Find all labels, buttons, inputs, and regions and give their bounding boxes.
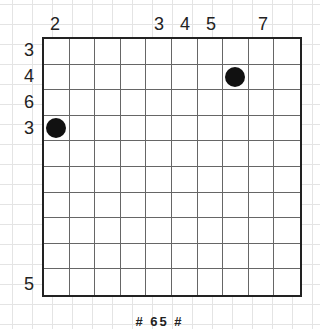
grid-cell-r5-c2[interactable] <box>70 141 96 167</box>
grid-cell-r7-c1[interactable] <box>44 193 70 219</box>
grid-cell-r5-c5[interactable] <box>146 141 172 167</box>
grid-cell-r1-c3[interactable] <box>95 39 121 65</box>
grid-cell-r10-c7[interactable] <box>198 269 224 295</box>
grid-cell-r8-c1[interactable] <box>44 218 70 244</box>
grid-cell-r2-c7[interactable] <box>198 65 224 91</box>
grid-cell-r8-c7[interactable] <box>198 218 224 244</box>
grid-cell-r10-c5[interactable] <box>146 269 172 295</box>
grid-cell-r10-c4[interactable] <box>121 269 147 295</box>
grid-cell-r1-c5[interactable] <box>146 39 172 65</box>
grid-cell-r2-c8[interactable] <box>223 65 249 91</box>
grid-cell-r6-c9[interactable] <box>249 167 275 193</box>
grid-cell-r7-c6[interactable] <box>172 193 198 219</box>
grid-cell-r6-c10[interactable] <box>274 167 300 193</box>
grid-cell-r2-c1[interactable] <box>44 65 70 91</box>
grid-cell-r1-c9[interactable] <box>249 39 275 65</box>
grid-cell-r9-c2[interactable] <box>70 244 96 270</box>
grid-cell-r10-c2[interactable] <box>70 269 96 295</box>
grid-cell-r9-c7[interactable] <box>198 244 224 270</box>
grid-cell-r6-c5[interactable] <box>146 167 172 193</box>
grid-cell-r4-c5[interactable] <box>146 116 172 142</box>
grid-cell-r10-c1[interactable] <box>44 269 70 295</box>
grid-cell-r2-c3[interactable] <box>95 65 121 91</box>
grid-cell-r7-c3[interactable] <box>95 193 121 219</box>
grid-cell-r6-c3[interactable] <box>95 167 121 193</box>
grid-cell-r2-c10[interactable] <box>274 65 300 91</box>
grid-cell-r8-c8[interactable] <box>223 218 249 244</box>
grid-cell-r9-c8[interactable] <box>223 244 249 270</box>
grid-cell-r1-c6[interactable] <box>172 39 198 65</box>
grid-cell-r5-c8[interactable] <box>223 141 249 167</box>
grid-cell-r8-c10[interactable] <box>274 218 300 244</box>
grid-cell-r10-c6[interactable] <box>172 269 198 295</box>
grid-cell-r9-c6[interactable] <box>172 244 198 270</box>
grid-cell-r6-c6[interactable] <box>172 167 198 193</box>
grid-cell-r2-c6[interactable] <box>172 65 198 91</box>
grid-cell-r4-c7[interactable] <box>198 116 224 142</box>
grid-cell-r10-c9[interactable] <box>249 269 275 295</box>
grid-cell-r6-c2[interactable] <box>70 167 96 193</box>
grid-cell-r4-c9[interactable] <box>249 116 275 142</box>
grid-cell-r7-c2[interactable] <box>70 193 96 219</box>
grid-cell-r5-c1[interactable] <box>44 141 70 167</box>
grid-cell-r9-c5[interactable] <box>146 244 172 270</box>
grid-cell-r3-c9[interactable] <box>249 90 275 116</box>
grid-cell-r10-c10[interactable] <box>274 269 300 295</box>
grid-cell-r3-c7[interactable] <box>198 90 224 116</box>
grid-cell-r3-c5[interactable] <box>146 90 172 116</box>
grid-cell-r6-c1[interactable] <box>44 167 70 193</box>
grid-cell-r5-c3[interactable] <box>95 141 121 167</box>
grid-cell-r3-c2[interactable] <box>70 90 96 116</box>
grid-cell-r4-c2[interactable] <box>70 116 96 142</box>
grid-cell-r3-c3[interactable] <box>95 90 121 116</box>
grid-cell-r1-c2[interactable] <box>70 39 96 65</box>
grid-cell-r9-c1[interactable] <box>44 244 70 270</box>
grid-cell-r8-c2[interactable] <box>70 218 96 244</box>
grid-cell-r2-c5[interactable] <box>146 65 172 91</box>
grid-cell-r1-c7[interactable] <box>198 39 224 65</box>
grid-cell-r5-c10[interactable] <box>274 141 300 167</box>
grid-cell-r8-c6[interactable] <box>172 218 198 244</box>
grid-cell-r9-c4[interactable] <box>121 244 147 270</box>
grid-cell-r8-c3[interactable] <box>95 218 121 244</box>
grid-cell-r1-c1[interactable] <box>44 39 70 65</box>
grid-cell-r4-c10[interactable] <box>274 116 300 142</box>
grid-cell-r3-c10[interactable] <box>274 90 300 116</box>
grid-cell-r9-c10[interactable] <box>274 244 300 270</box>
grid-cell-r6-c4[interactable] <box>121 167 147 193</box>
grid-cell-r4-c1[interactable] <box>44 116 70 142</box>
grid-cell-r3-c4[interactable] <box>121 90 147 116</box>
grid-cell-r3-c6[interactable] <box>172 90 198 116</box>
grid-cell-r6-c8[interactable] <box>223 167 249 193</box>
grid-cell-r4-c6[interactable] <box>172 116 198 142</box>
grid-cell-r3-c8[interactable] <box>223 90 249 116</box>
grid-cell-r9-c3[interactable] <box>95 244 121 270</box>
grid-cell-r5-c9[interactable] <box>249 141 275 167</box>
grid-cell-r5-c6[interactable] <box>172 141 198 167</box>
grid-cell-r5-c4[interactable] <box>121 141 147 167</box>
grid-cell-r1-c4[interactable] <box>121 39 147 65</box>
grid-cell-r7-c8[interactable] <box>223 193 249 219</box>
grid-cell-r2-c9[interactable] <box>249 65 275 91</box>
grid-cell-r10-c8[interactable] <box>223 269 249 295</box>
grid-cell-r6-c7[interactable] <box>198 167 224 193</box>
grid-cell-r4-c4[interactable] <box>121 116 147 142</box>
grid-cell-r1-c8[interactable] <box>223 39 249 65</box>
grid-cell-r7-c7[interactable] <box>198 193 224 219</box>
grid-cell-r3-c1[interactable] <box>44 90 70 116</box>
grid-cell-r1-c10[interactable] <box>274 39 300 65</box>
grid-cell-r7-c5[interactable] <box>146 193 172 219</box>
grid-cell-r7-c4[interactable] <box>121 193 147 219</box>
grid-cell-r8-c9[interactable] <box>249 218 275 244</box>
grid-cell-r10-c3[interactable] <box>95 269 121 295</box>
grid-cell-r8-c4[interactable] <box>121 218 147 244</box>
grid-cell-r2-c4[interactable] <box>121 65 147 91</box>
grid-cell-r4-c3[interactable] <box>95 116 121 142</box>
grid-cell-r4-c8[interactable] <box>223 116 249 142</box>
grid-cell-r8-c5[interactable] <box>146 218 172 244</box>
grid-cell-r7-c9[interactable] <box>249 193 275 219</box>
grid-cell-r5-c7[interactable] <box>198 141 224 167</box>
grid-cell-r2-c2[interactable] <box>70 65 96 91</box>
grid-cell-r7-c10[interactable] <box>274 193 300 219</box>
grid-cell-r9-c9[interactable] <box>249 244 275 270</box>
